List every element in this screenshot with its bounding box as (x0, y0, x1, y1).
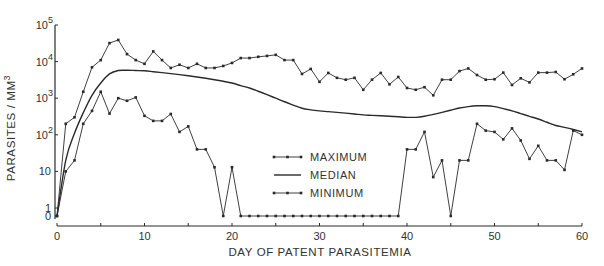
minimum-point (572, 129, 575, 132)
minimum-point (126, 99, 129, 102)
minimum-point (309, 215, 312, 218)
y-axis-label: PARASITES / MM3 (2, 75, 17, 181)
maximum-point (554, 71, 557, 74)
minimum-point (117, 97, 120, 100)
minimum-point (388, 215, 391, 218)
maximum-point (257, 56, 260, 59)
y-tick-label: 10 (39, 165, 51, 177)
maximum-point (406, 87, 409, 90)
y-tick-label: 102 (36, 125, 53, 141)
x-tick-label: 30 (313, 230, 325, 242)
legend-label: MINIMUM (310, 187, 364, 199)
maximum-point (371, 78, 374, 81)
y-tick-label: 105 (36, 15, 53, 31)
maximum-point (152, 50, 155, 53)
maximum-point (266, 55, 269, 58)
minimum-point (397, 215, 400, 218)
minimum-point (362, 215, 365, 218)
minimum-point (99, 90, 102, 93)
minimum-point (441, 159, 444, 162)
maximum-point (91, 66, 94, 69)
y-tick-label: 104 (36, 52, 53, 68)
minimum-point (406, 148, 409, 151)
minimum-point (91, 110, 94, 113)
x-tick-label: 40 (401, 230, 413, 242)
maximum-point (537, 71, 540, 74)
minimum-point (554, 159, 557, 162)
maximum-point (336, 77, 339, 80)
minimum-point (248, 215, 251, 218)
maximum-point (64, 122, 67, 125)
legend-dot (300, 156, 303, 159)
minimum-point (231, 166, 234, 169)
minimum-point (318, 215, 321, 218)
minimum-point (257, 215, 260, 218)
minimum-point (511, 127, 514, 130)
maximum-point (327, 72, 330, 75)
maximum-point (441, 78, 444, 81)
maximum-point (484, 78, 487, 81)
legend-item-maximum: MAXIMUM (273, 151, 368, 163)
minimum-point (528, 158, 531, 161)
minimum-point (432, 176, 435, 179)
minimum-point (336, 215, 339, 218)
minimum-point (64, 170, 67, 173)
minimum-point (134, 96, 137, 99)
minimum-point (563, 169, 566, 172)
minimum-point (476, 122, 479, 125)
maximum-point (572, 73, 575, 76)
maximum-point (108, 42, 111, 45)
legend-dot (300, 192, 303, 195)
legend: MAXIMUMMEDIANMINIMUM (273, 151, 368, 199)
minimum-point (213, 166, 216, 169)
minimum-point (73, 159, 76, 162)
minimum-point (371, 215, 374, 218)
maximum-point (274, 54, 277, 57)
maximum-point (283, 59, 286, 62)
maximum-point (309, 68, 312, 71)
x-tick-label: 50 (488, 230, 500, 242)
y-tick-label: 103 (36, 88, 53, 104)
maximum-point (187, 67, 190, 70)
minimum-point (222, 215, 225, 218)
minimum-point (423, 131, 426, 134)
minimum-point (467, 159, 470, 162)
x-tick-label: 20 (226, 230, 238, 242)
maximum-point (449, 78, 452, 81)
legend-label: MAXIMUM (310, 151, 367, 163)
legend-dot (273, 192, 276, 195)
maximum-point (414, 88, 417, 91)
minimum-point (56, 215, 59, 218)
minimum-point (187, 125, 190, 128)
minimum-point (274, 215, 277, 218)
minimum-point (379, 215, 382, 218)
x-tick-label: 60 (576, 230, 588, 242)
minimum-point (161, 120, 164, 123)
x-axis-label: DAY OF PATENT PARASITEMIA (228, 246, 411, 258)
maximum-point (379, 72, 382, 75)
legend-item-median: MEDIAN (274, 169, 356, 181)
maximum-point (511, 84, 514, 87)
maximum-point (178, 63, 181, 66)
maximum-point (143, 63, 146, 66)
maximum-point (231, 62, 234, 65)
maximum-point (563, 78, 566, 81)
parasite-density-chart: 01101021031041050102030405060 MAXIMUMMED… (0, 0, 604, 266)
maximum-point (99, 59, 102, 62)
minimum-point (152, 120, 155, 123)
maximum-point (476, 74, 479, 77)
maximum-point (301, 73, 304, 76)
maximum-point (546, 71, 549, 74)
minimum-point (353, 215, 356, 218)
maximum-point (117, 39, 120, 42)
maximum-point (196, 63, 199, 66)
minimum-point (196, 148, 199, 151)
legend-dot (273, 156, 276, 159)
maximum-point (73, 116, 76, 119)
minimum-point (143, 115, 146, 118)
minimum-point (449, 215, 452, 218)
minimum-point (301, 215, 304, 218)
maximum-point (528, 81, 531, 84)
maximum-point (213, 67, 216, 70)
minimum-point (266, 215, 269, 218)
